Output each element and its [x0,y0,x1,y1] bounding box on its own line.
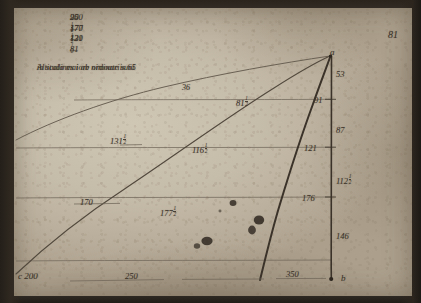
label-baseline-350: 350 [286,270,299,279]
gridlines [16,99,332,261]
axis-ticks [325,99,336,197]
ink-blot [230,200,237,206]
label-right-146: 146 [336,232,349,241]
point-b [329,277,333,281]
label-curve-170: 170 [80,198,93,207]
label-curve-36: 36 [182,84,190,92]
baseline-rule-left [70,280,164,281]
gridline-91 [74,99,332,100]
curve-outer-arc [16,56,330,140]
trajectory-diagram [14,8,412,296]
label-connectors [74,145,142,204]
ink-blot [248,226,256,235]
ink-blot [254,215,264,224]
ink-blot [201,237,212,245]
label-right-87: 87 [336,126,345,135]
gridline-baseline [16,260,332,261]
label-curve-121: 121 [304,144,317,153]
label-right-53: 53 [336,70,345,79]
curve-middle-arc [16,56,330,274]
paper-leaf: 250 — 90 170 — 177 12 121 — 130 12 81 — … [14,8,412,296]
label-curve-177: 17712 [160,206,176,217]
label-curve-131: 13112 [110,134,126,145]
label-baseline-c200: c 200 [18,272,38,281]
ink-blot [194,243,200,249]
gridline-121 [16,147,332,148]
label-curve-116: 11612 [192,143,207,154]
label-curve-176: 176 [302,194,315,203]
label-point-b: b [341,274,346,283]
ink-blots [194,200,264,249]
label-curve-81: 8112 [236,96,248,107]
label-baseline-250: 250 [125,272,138,281]
gridline-176 [16,197,332,198]
label-curve-91: 91 [314,96,323,105]
ink-blot [219,210,222,213]
label-right-112: 11212 [336,174,351,185]
label-point-a: a [330,48,335,57]
manuscript-page: 250 — 90 170 — 177 12 121 — 130 12 81 — … [0,0,421,303]
